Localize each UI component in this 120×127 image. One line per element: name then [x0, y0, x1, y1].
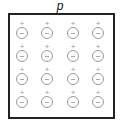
acceptor-ion-icon: [92, 50, 104, 62]
acceptor-ion-icon: [92, 96, 104, 108]
acceptor-ion-icon: [41, 27, 53, 39]
charge-pair: +: [91, 89, 105, 109]
charge-pair: +: [66, 66, 80, 86]
acceptor-ion-icon: [67, 50, 79, 62]
acceptor-ion-icon: [16, 50, 28, 62]
acceptor-ion-icon: [16, 96, 28, 108]
acceptor-ion-icon: [67, 96, 79, 108]
acceptor-ion-icon: [16, 73, 28, 85]
charge-pair: +: [66, 89, 80, 109]
charge-pair: +: [40, 43, 54, 63]
acceptor-ion-icon: [41, 96, 53, 108]
acceptor-ion-icon: [41, 50, 53, 62]
charge-pair: +: [40, 66, 54, 86]
charge-pair: +: [15, 43, 29, 63]
charge-pair: +: [91, 66, 105, 86]
charge-pair: +: [66, 43, 80, 63]
charge-pair: +: [91, 43, 105, 63]
acceptor-ion-icon: [92, 73, 104, 85]
charge-pair: +: [40, 89, 54, 109]
charge-pair: +: [40, 20, 54, 40]
acceptor-ion-icon: [92, 27, 104, 39]
charge-pair: +: [91, 20, 105, 40]
charge-pair: +: [66, 20, 80, 40]
charge-pair: +: [15, 66, 29, 86]
region-label: p: [0, 0, 120, 13]
charge-pair: +: [15, 89, 29, 109]
acceptor-ion-icon: [16, 27, 28, 39]
charge-pair: +: [15, 20, 29, 40]
acceptor-ion-icon: [41, 73, 53, 85]
acceptor-ion-icon: [67, 27, 79, 39]
acceptor-ion-icon: [67, 73, 79, 85]
